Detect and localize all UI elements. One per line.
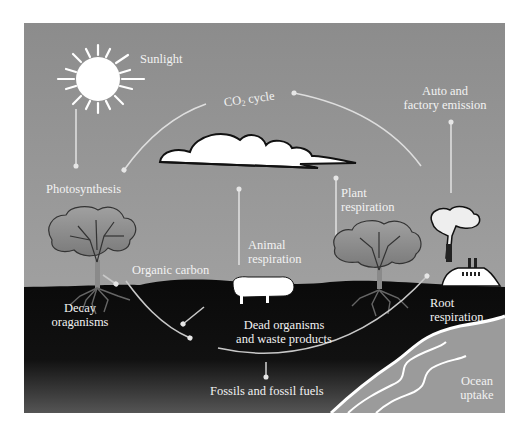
label-line: Decay (40, 301, 120, 315)
label-line: respiration (430, 310, 483, 324)
label-line: and waste products (220, 332, 348, 346)
label-auto-factory-emission: Auto and factory emission (392, 84, 498, 112)
label-line: respiration (341, 200, 394, 214)
label-decay-organisms: Decay oraganisms (40, 301, 120, 329)
label-line: Root (430, 296, 483, 310)
co2-text: CO (223, 93, 242, 109)
label-line: Auto and (392, 84, 498, 98)
label-photosynthesis: Photosynthesis (46, 182, 121, 196)
label-line: Animal (248, 238, 301, 252)
label-root-respiration: Root respiration (430, 296, 483, 324)
label-dead-organisms: Dead organisms and waste products (220, 318, 348, 346)
label-line: oraganisms (40, 315, 120, 329)
label-line: factory emission (392, 98, 498, 112)
diagram-artwork (0, 0, 528, 430)
label-line: Dead organisms (220, 318, 348, 332)
label-plant-respiration: Plant respiration (341, 186, 394, 214)
label-organic-carbon: Organic carbon (132, 263, 209, 277)
label-animal-respiration: Animal respiration (248, 238, 301, 266)
cycle-text: cycle (244, 89, 275, 107)
label-line: uptake (452, 388, 502, 402)
label-fossils: Fossils and fossil fuels (210, 384, 324, 398)
label-ocean-uptake: Ocean uptake (452, 374, 502, 402)
carbon-cycle-diagram: Sunlight CO2 cycle Auto and factory emis… (0, 0, 528, 430)
label-sunlight: Sunlight (140, 52, 182, 66)
label-line: respiration (248, 252, 301, 266)
label-line: Plant (341, 186, 394, 200)
label-line: Ocean (452, 374, 502, 388)
